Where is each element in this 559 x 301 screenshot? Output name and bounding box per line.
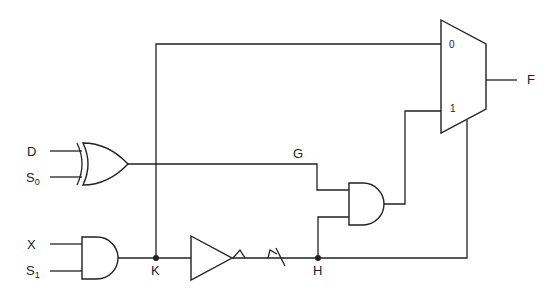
wire-h-to-and2 [318, 217, 349, 258]
label-f: F [527, 72, 535, 87]
delay-mark-icon [233, 250, 245, 258]
label-s0: S0 [26, 170, 40, 187]
and-gate-2 [349, 183, 384, 225]
xor-gate [77, 143, 128, 185]
wire-and2-to-mux1 [384, 111, 441, 204]
and-gate-1 [82, 237, 118, 279]
junction-k [153, 255, 159, 261]
mux-pin-0: 0 [449, 39, 455, 50]
label-d: D [27, 144, 36, 159]
label-g: G [293, 146, 303, 161]
junction-h [315, 255, 321, 261]
label-k: K [151, 263, 160, 278]
mux-pin-1: 1 [450, 103, 456, 114]
wire-g [128, 164, 349, 190]
circuit-svg: D S0 X S1 G K H F 0 1 [0, 0, 559, 301]
label-x: X [27, 237, 36, 252]
slash-marker-icon [268, 248, 285, 266]
label-h: H [313, 263, 322, 278]
label-s1: S1 [26, 263, 40, 280]
logic-circuit-diagram: D S0 X S1 G K H F 0 1 [0, 0, 559, 301]
multiplexer [441, 20, 486, 133]
